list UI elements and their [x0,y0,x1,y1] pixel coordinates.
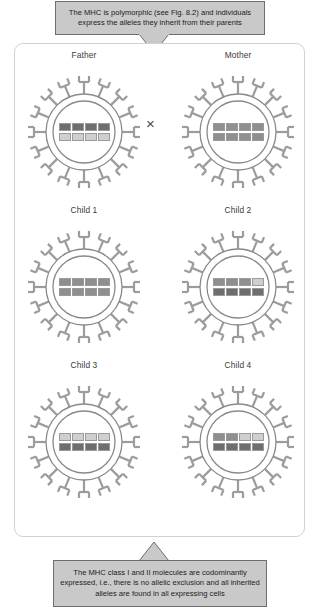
allele-bars [172,372,304,512]
caption-bottom-pointer [139,542,169,562]
allele-block [72,123,84,131]
allele-block [59,433,71,441]
allele-block [59,443,71,451]
caption-bottom: The MHC class I and II molecules are cod… [53,560,267,607]
allele-block [226,433,238,441]
cell-label: Child 4 [172,360,304,370]
allele-block [59,278,71,286]
allele-row-top [59,433,110,441]
allele-bars [18,372,150,512]
allele-block [59,288,71,296]
allele-block [98,278,110,286]
allele-block [213,433,225,441]
cell-label: Child 1 [18,205,150,215]
allele-block [239,443,251,451]
cell-label: Child 2 [172,205,304,215]
allele-block [85,278,97,286]
allele-block [85,433,97,441]
allele-bars [172,62,304,202]
caption-top: The MHC is polymorphic (see Fig. 8.2) an… [55,1,265,35]
allele-block [72,288,84,296]
allele-row-top [213,123,264,131]
allele-block [85,443,97,451]
allele-block [59,133,71,141]
allele-block [213,133,225,141]
allele-row-top [59,123,110,131]
allele-block [252,443,264,451]
allele-block [239,123,251,131]
allele-block [239,278,251,286]
allele-block [85,133,97,141]
allele-block [98,433,110,441]
allele-block [98,443,110,451]
cell-child-3: Child 3 [18,360,150,512]
allele-block [239,433,251,441]
allele-block [72,133,84,141]
allele-block [213,288,225,296]
allele-block [85,123,97,131]
cross-symbol: × [146,116,155,131]
allele-block [59,123,71,131]
allele-block [213,123,225,131]
cell-child-2: Child 2 [172,205,304,357]
cell-label: Father [18,50,150,60]
allele-block [213,278,225,286]
allele-block [213,443,225,451]
cell-child-1: Child 1 [18,205,150,357]
allele-row-top [213,433,264,441]
cell-child-4: Child 4 [172,360,304,512]
allele-row-bottom [213,443,264,451]
caption-top-text: The MHC is polymorphic (see Fig. 8.2) an… [62,8,258,29]
allele-row-top [59,278,110,286]
allele-block [72,443,84,451]
allele-block [252,288,264,296]
allele-block [252,433,264,441]
allele-block [98,123,110,131]
allele-row-bottom [59,133,110,141]
allele-block [226,133,238,141]
allele-bars [18,62,150,202]
allele-block [239,288,251,296]
allele-block [226,288,238,296]
allele-bars [18,217,150,357]
allele-row-bottom [59,443,110,451]
allele-block [72,433,84,441]
allele-block [85,288,97,296]
cell-label: Mother [172,50,304,60]
allele-block [226,278,238,286]
allele-block [72,278,84,286]
cell-father: Father [18,50,150,202]
allele-row-bottom [213,133,264,141]
allele-row-bottom [213,288,264,296]
allele-block [252,278,264,286]
allele-block [252,123,264,131]
allele-block [239,133,251,141]
allele-bars [172,217,304,357]
cell-label: Child 3 [18,360,150,370]
allele-block [226,443,238,451]
allele-block [98,288,110,296]
cell-mother: Mother [172,50,304,202]
allele-block [226,123,238,131]
caption-bottom-text: The MHC class I and II molecules are cod… [60,568,260,600]
allele-block [252,133,264,141]
allele-row-top [213,278,264,286]
allele-row-bottom [59,288,110,296]
allele-block [98,133,110,141]
